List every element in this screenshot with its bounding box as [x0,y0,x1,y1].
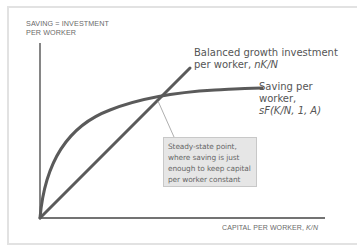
y-axis-label: SAVING = INVESTMENT PER WORKER [26,19,109,37]
callout-line1: Steady-state point, [168,141,256,152]
investment-label-line1: Balanced growth investment [194,47,338,59]
callout-leader-line [158,101,174,137]
callout-line2: where saving is just [168,152,256,163]
callout-line3: enough to keep capital [168,163,256,174]
steady-state-callout: Steady-state point, where saving is just… [163,137,257,187]
saving-label-line2: worker, [259,93,321,105]
saving-label-line1: Saving per [259,81,321,93]
y-axis-label-line2: PER WORKER [26,28,109,37]
investment-label-var: nK/N [254,59,278,70]
x-axis-label: CAPITAL PER WORKER, K/N [222,224,318,231]
saving-label-line3: sF(K/N, 1, A) [259,105,321,116]
saving-curve-label: Saving per worker, sF(K/N, 1, A) [259,81,321,117]
callout-line4: per worker constant [168,174,256,185]
y-axis-label-line1: SAVING = INVESTMENT [26,19,109,28]
investment-label-line2: per worker, [194,59,254,70]
investment-line-label: Balanced growth investment per worker, n… [194,47,338,71]
x-axis-label-text: CAPITAL PER WORKER, [222,224,306,231]
x-axis-label-var: K/N [306,224,318,231]
